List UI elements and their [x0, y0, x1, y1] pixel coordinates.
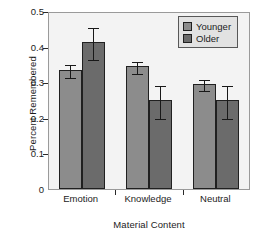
legend-label: Younger — [196, 21, 231, 32]
error-bar-cap-top — [88, 28, 99, 29]
error-bar-cap-top — [65, 65, 76, 66]
error-bar-cap-bottom — [65, 78, 76, 79]
error-bar-cap-bottom — [222, 119, 233, 120]
x-tick-mark — [115, 190, 116, 195]
y-tick-label: 0.4 — [4, 43, 44, 53]
legend-item-older: Older — [183, 32, 231, 44]
error-bar-emotion-younger — [59, 65, 82, 79]
error-bar-cap-bottom — [199, 91, 210, 92]
y-axis-tick-labels: 00.10.20.30.40.5 — [0, 0, 44, 240]
error-bar-cap-top — [132, 62, 143, 63]
error-bar-stem — [70, 65, 71, 79]
legend: YoungerOlder — [178, 16, 238, 48]
error-bar-cap-top — [222, 86, 233, 87]
x-axis-title: Material Content — [48, 219, 250, 230]
bar-chart-figure: Percent Remembered 00.10.20.30.40.5 Emot… — [0, 0, 267, 240]
error-bar-cap-top — [155, 86, 166, 87]
error-bar-cap-bottom — [132, 74, 143, 75]
y-tick-label: 0.5 — [4, 7, 44, 17]
y-tick-label: 0.2 — [4, 114, 44, 124]
legend-label: Older — [196, 33, 219, 44]
error-bar-cap-top — [199, 80, 210, 81]
y-tick-label: 0.3 — [4, 78, 44, 88]
error-bar-stem — [227, 86, 228, 120]
error-bar-stem — [160, 86, 161, 120]
legend-swatch-icon — [183, 34, 192, 43]
x-tick-label-neutral: Neutral — [165, 193, 265, 204]
error-bar-stem — [93, 28, 94, 61]
legend-item-younger: Younger — [183, 20, 231, 32]
bar-emotion-younger — [59, 70, 82, 189]
bar-emotion-older — [82, 42, 105, 189]
error-bar-cap-bottom — [88, 60, 99, 61]
error-bar-knowledge-younger — [126, 62, 149, 75]
error-bar-cap-bottom — [155, 119, 166, 120]
bar-knowledge-younger — [126, 66, 149, 189]
error-bar-neutral-older — [216, 86, 239, 120]
error-bar-knowledge-older — [149, 86, 172, 120]
error-bar-neutral-younger — [193, 80, 216, 93]
bar-neutral-younger — [193, 84, 216, 189]
y-tick-label: 0.1 — [4, 149, 44, 159]
error-bar-emotion-older — [82, 28, 105, 61]
x-tick-mark — [183, 190, 184, 195]
legend-swatch-icon — [183, 22, 192, 31]
